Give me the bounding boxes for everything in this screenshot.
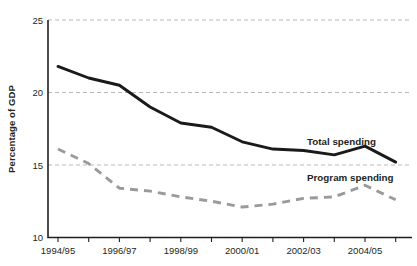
y-tick-15: 15 xyxy=(32,160,43,171)
y-tick-10: 10 xyxy=(32,232,43,243)
x-axis-tick-labels: 1994/95 1996/97 1998/99 2000/01 2002/03 … xyxy=(41,245,382,256)
x-tick-1994-95: 1994/95 xyxy=(41,245,75,256)
series-line-total-spending xyxy=(58,66,396,162)
y-axis-title: Percentage of GDP xyxy=(6,85,17,173)
x-tick-1996-97: 1996/97 xyxy=(102,245,136,256)
y-axis-tick-labels: 25 20 15 10 xyxy=(32,15,43,244)
gdp-spending-line-chart: 25 20 15 10 Percentage of GDP 1994/95 19… xyxy=(0,0,417,266)
y-tick-20: 20 xyxy=(32,87,43,98)
x-tick-2004-05: 2004/05 xyxy=(348,245,382,256)
y-tick-25: 25 xyxy=(32,15,43,26)
x-tick-1998-99: 1998/99 xyxy=(164,245,198,256)
x-tick-2000-01: 2000/01 xyxy=(225,245,259,256)
x-tick-2002-03: 2002/03 xyxy=(286,245,320,256)
series-label-total-spending: Total spending xyxy=(307,136,376,147)
series-label-program-spending: Program spending xyxy=(307,172,394,183)
chart-container: 25 20 15 10 Percentage of GDP 1994/95 19… xyxy=(0,0,417,266)
